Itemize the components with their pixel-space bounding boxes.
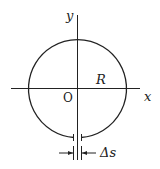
origin-label: O	[63, 91, 73, 105]
circle-gap-diagram: y x O R Δs	[0, 0, 160, 169]
gap-label: Δs	[99, 145, 116, 160]
arrowhead-right-icon	[68, 151, 73, 155]
arrowhead-left-icon	[82, 151, 87, 155]
y-axis-label: y	[65, 8, 74, 23]
radius-label: R	[95, 72, 106, 87]
x-axis-label: x	[144, 89, 152, 104]
